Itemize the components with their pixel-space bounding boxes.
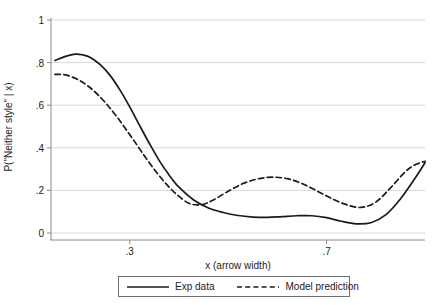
y-tick-label: .6 [18,100,44,111]
x-tick-label: .3 [126,246,134,257]
y-tick-label: 0 [18,228,44,239]
x-tick-label: .7 [322,246,330,257]
x-axis-label: x (arrow width) [205,260,271,271]
legend-label-model-prediction: Model prediction [280,281,358,292]
legend-item-model-prediction: Model prediction [236,281,358,292]
chart-figure: 0.2.4.6.81 .3.7 P("Neither style" | x) x… [0,0,434,305]
y-tick-label: .4 [18,142,44,153]
legend-item-exp-data: Exp data [126,281,214,292]
chart-legend: Exp data Model prediction [118,276,350,297]
legend-swatch-dashed-line [236,282,280,292]
y-tick-label: 1 [18,15,44,26]
legend-swatch-solid-line [126,282,170,292]
series-line-2 [55,74,425,207]
series-line-1 [55,54,425,224]
y-axis-label: P("Neither style" | x) [3,82,14,171]
y-tick-label: .8 [18,57,44,68]
legend-label-exp-data: Exp data [170,281,214,292]
y-tick-label: .2 [18,185,44,196]
